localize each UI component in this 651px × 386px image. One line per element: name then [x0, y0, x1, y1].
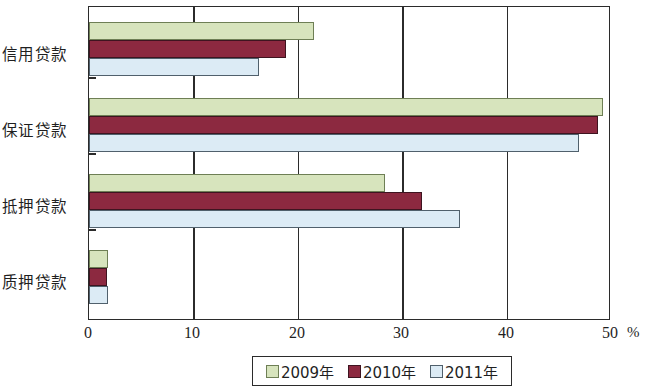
group-tick-1 [89, 153, 96, 155]
bar-质押贷款-2010年 [89, 268, 107, 286]
legend-swatch-icon-2011 [430, 365, 443, 378]
plot-area [88, 6, 610, 320]
group-tick-2 [89, 229, 96, 231]
bar-保证贷款-2009年 [89, 98, 603, 116]
category-label-2: 抵押贷款 [2, 194, 86, 216]
axis-unit-label: % [627, 324, 640, 341]
group-tick-0 [89, 77, 96, 79]
chart-legend: 2009年 2010年 2011年 [252, 356, 512, 386]
bar-保证贷款-2010年 [89, 116, 598, 134]
legend-label-2011: 2011年 [445, 361, 498, 382]
legend-label-2009: 2009年 [281, 361, 334, 382]
legend-item-2009: 2009年 [266, 361, 334, 382]
bar-保证贷款-2011年 [89, 134, 579, 152]
xtick-label-2: 20 [277, 324, 317, 342]
category-label-1: 保证贷款 [2, 118, 86, 140]
bar-信用贷款-2010年 [89, 40, 286, 58]
xtick-label-1: 10 [172, 324, 212, 342]
gridline-30 [402, 7, 404, 319]
xtick-label-0: 0 [68, 324, 108, 342]
legend-label-2010: 2010年 [363, 361, 416, 382]
gridline-40 [507, 7, 509, 319]
xtick-label-4: 40 [486, 324, 526, 342]
bar-信用贷款-2011年 [89, 58, 259, 76]
category-label-3: 质押贷款 [2, 270, 86, 292]
legend-swatch-icon-2009 [266, 365, 279, 378]
bar-抵押贷款-2009年 [89, 174, 385, 192]
legend-swatch-icon-2010 [348, 365, 361, 378]
xtick-label-3: 30 [381, 324, 421, 342]
bar-抵押贷款-2011年 [89, 210, 460, 228]
bar-质押贷款-2009年 [89, 250, 108, 268]
gridline-20 [298, 7, 300, 319]
legend-item-2011: 2011年 [430, 361, 498, 382]
xtick-label-5: 50 [590, 324, 630, 342]
bar-信用贷款-2009年 [89, 22, 314, 40]
bar-质押贷款-2011年 [89, 286, 108, 304]
category-label-0: 信用贷款 [2, 42, 86, 64]
bar-抵押贷款-2010年 [89, 192, 422, 210]
legend-item-2010: 2010年 [348, 361, 416, 382]
